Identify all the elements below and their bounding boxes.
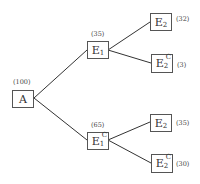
e1-count: (35) (91, 30, 104, 38)
node-e1c-e2c-base: E (156, 158, 164, 169)
e1-e2-count: (32) (176, 15, 189, 23)
node-e1-e2: E2 (150, 13, 172, 31)
e1c-e2-count: (35) (176, 119, 189, 127)
edge-e1-e2c (108, 50, 151, 63)
node-a: A (12, 90, 34, 108)
e1-e2c-count: (3) (177, 61, 186, 69)
edge-e1c-e2c (108, 140, 151, 163)
node-e1c-e2c: E2C (151, 154, 173, 173)
node-e1c-base: E (92, 136, 100, 147)
node-e1-e2-base: E (155, 17, 163, 28)
node-e1-e2c: E2C (151, 54, 173, 73)
e1c-e2c-count: (30) (176, 160, 189, 168)
node-e1c-sup: C (102, 132, 107, 139)
node-e1c-e2-base: E (155, 118, 163, 129)
node-e1-base: E (92, 45, 100, 56)
node-e1-e2c-base: E (156, 58, 164, 69)
node-e1c-e2c-sup: C (166, 154, 171, 161)
node-e1c: E1C (87, 132, 109, 150)
node-e1c-sub: 1 (100, 141, 104, 148)
root-count: (100) (13, 78, 30, 86)
node-e1-e2-sub: 2 (163, 22, 167, 29)
node-e1c-e2: E2 (150, 114, 172, 132)
node-e1c-e2-sub: 2 (163, 123, 167, 130)
edge-e1c-e2 (108, 122, 150, 140)
node-a-label: A (19, 94, 27, 105)
node-e1c-e2c-sub: 2 (164, 163, 168, 170)
edge-a-e1c (34, 98, 87, 140)
node-e1: E1 (87, 41, 109, 59)
node-e1-e2c-sub: 2 (164, 63, 168, 70)
edge-e1-e2 (108, 22, 150, 50)
e1c-count: (65) (91, 121, 104, 129)
node-e1-e2c-sup: C (166, 54, 171, 61)
node-e1-sub: 1 (100, 50, 104, 57)
edge-a-e1 (34, 50, 87, 98)
